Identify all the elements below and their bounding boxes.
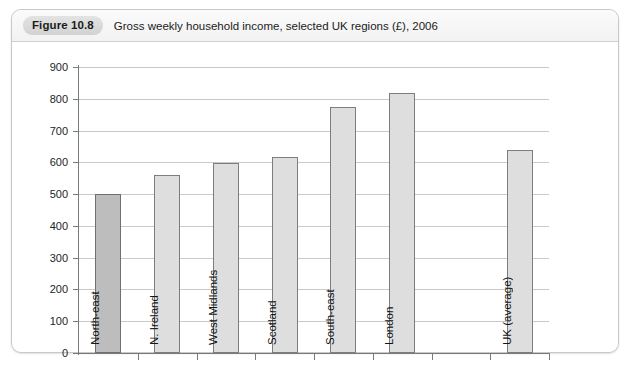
y-tick-mark (73, 289, 79, 290)
x-tick-mark (255, 354, 256, 360)
chart-plot-area: 0100200300400500600700800900 North-eastN… (12, 42, 618, 352)
x-tick-mark (549, 354, 550, 360)
x-tick-mark (432, 354, 433, 360)
bar-category-label: N. Ireland (149, 295, 161, 345)
y-axis-tick-label: 500 (12, 188, 68, 200)
x-tick-mark (490, 354, 491, 360)
x-tick-mark (197, 354, 198, 360)
bar-category-label: London (384, 307, 396, 345)
gridline (79, 226, 549, 227)
figure-caption-text: Gross weekly household income, selected … (114, 20, 438, 32)
bar-category-label: UK (average) (501, 277, 513, 345)
gridline (79, 67, 549, 68)
y-tick-mark (73, 353, 79, 354)
gridline (79, 162, 549, 163)
gridline (79, 194, 549, 195)
y-tick-mark (73, 194, 79, 195)
x-tick-mark (314, 354, 315, 360)
bar-category-label: North-east (90, 291, 102, 345)
y-axis-tick-label: 300 (12, 252, 68, 264)
y-axis-tick-label: 400 (12, 220, 68, 232)
bar-category-label: Scotland (266, 300, 278, 345)
y-tick-mark (73, 67, 79, 68)
y-axis-tick-label: 200 (12, 283, 68, 295)
y-tick-mark (73, 258, 79, 259)
figure-number-badge: Figure 10.8 (23, 16, 103, 35)
y-tick-mark (73, 226, 79, 227)
figure-card: Figure 10.8 Gross weekly household incom… (11, 9, 619, 353)
y-tick-mark (73, 321, 79, 322)
gridline (79, 131, 549, 132)
y-axis-tick-label: 700 (12, 125, 68, 137)
y-axis-tick-label: 100 (12, 315, 68, 327)
gridline (79, 258, 549, 259)
y-tick-mark (73, 131, 79, 132)
gridline (79, 289, 549, 290)
x-tick-mark (138, 354, 139, 360)
gridline (79, 99, 549, 100)
y-axis-tick-label: 600 (12, 156, 68, 168)
y-tick-mark (73, 99, 79, 100)
bar-category-label: West Midlands (207, 270, 219, 345)
y-axis-tick-label: 800 (12, 93, 68, 105)
figure-caption-bar: Figure 10.8 Gross weekly household incom… (12, 10, 618, 42)
y-axis-tick-label: 900 (12, 61, 68, 73)
y-tick-mark (73, 162, 79, 163)
y-axis-tick-label: 0 (12, 347, 68, 359)
bar-category-label: South-east (325, 289, 337, 345)
x-tick-mark (373, 354, 374, 360)
